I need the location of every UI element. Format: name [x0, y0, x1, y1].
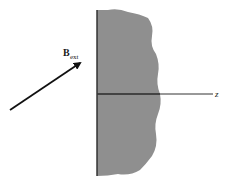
- b-ext-arrow: [10, 63, 80, 110]
- z-axis-label: z: [214, 89, 219, 99]
- b-ext-subscript: ext: [70, 53, 79, 61]
- b-ext-label: B: [63, 47, 70, 58]
- material-slab: [97, 9, 161, 176]
- diagram-canvas: z B ext: [0, 0, 230, 185]
